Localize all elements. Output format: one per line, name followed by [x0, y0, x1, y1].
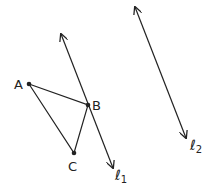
point-a — [27, 82, 32, 87]
label-l2: ℓ2 — [189, 137, 202, 155]
label-a: A — [14, 77, 23, 92]
line-l1 — [61, 34, 113, 168]
point-c — [72, 151, 77, 156]
geometry-diagram: A B C ℓ1 ℓ2 — [0, 0, 216, 191]
label-b: B — [92, 98, 101, 113]
label-c: C — [68, 159, 77, 174]
triangle-abc — [29, 84, 88, 153]
label-l1: ℓ1 — [114, 167, 127, 185]
line-l2 — [135, 7, 186, 138]
point-b — [86, 103, 91, 108]
